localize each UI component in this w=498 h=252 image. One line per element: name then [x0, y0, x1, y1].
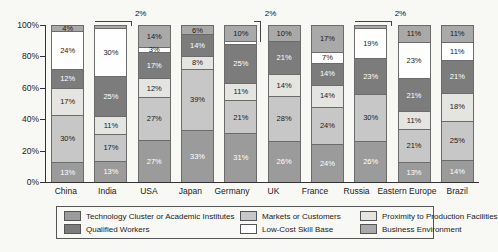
bar-segment: 30% [354, 94, 387, 141]
legend-label: Qualified Workers [86, 225, 149, 234]
bar-segment: 24% [51, 31, 84, 69]
stacked-bar-germany: 31%21%11%25%10%2% [224, 25, 257, 182]
bar-segment: 17% [94, 134, 127, 161]
x-axis-label-text: France [302, 186, 328, 196]
bar-slot: 26%28%14%21%10% [262, 25, 305, 182]
y-tick-label: 40% [1, 114, 39, 124]
callout-line [254, 21, 261, 42]
y-tick-mark [40, 151, 46, 152]
plot-area: 13%30%17%12%24%4%13%17%11%25%30%2%27%27%… [45, 25, 479, 183]
legend-label: Business Environment [382, 225, 462, 234]
bar-segment: 33% [181, 130, 214, 182]
bar-segment: 10% [268, 25, 301, 41]
y-tick-label: 100% [1, 20, 39, 30]
y-tick-mark [40, 56, 46, 57]
bar-segment: 21% [398, 129, 431, 162]
stacked-bar-japan: 33%39%8%14%6% [181, 25, 214, 182]
bar-segment: 11% [441, 25, 474, 42]
bar-segment: 28% [268, 96, 301, 140]
stacked-bar-brazil: 14%25%18%21%11%11% [441, 25, 474, 182]
bar-segment: 21% [224, 100, 257, 133]
legend-item: Markets or Customers [240, 211, 360, 221]
bar-segment: 39% [181, 69, 214, 130]
bar-slot: 14%25%18%21%11%11% [436, 25, 479, 182]
bar-segment: 27% [138, 97, 171, 139]
bar-segment: 17% [311, 25, 344, 52]
legend-swatch [240, 224, 257, 234]
y-tick-mark [40, 182, 46, 183]
bar-segment: 13% [51, 162, 84, 182]
x-axis-label-text: Brazil [447, 186, 468, 196]
x-axis-label: France [294, 186, 336, 196]
bar-segment: 13% [398, 162, 431, 182]
bar-slot: 26%30%23%19%2% [349, 25, 392, 182]
callout-label: 2% [265, 9, 277, 18]
bar-segment: 14% [138, 25, 171, 47]
stacked-bar-eastern-europe: 13%21%11%21%23%11% [398, 25, 431, 182]
bar-segment: 31% [224, 133, 257, 182]
bar-segment: 11% [398, 25, 431, 42]
bar-segment: 30% [94, 28, 127, 76]
bar-segment: 14% [181, 34, 214, 56]
stacked-bar-china: 13%30%17%12%24%4% [51, 25, 84, 182]
legend-item: Qualified Workers [64, 224, 240, 234]
bar-segment: 14% [311, 63, 344, 85]
bar-slot: 13%30%17%12%24%4% [46, 25, 89, 182]
bar-segment: 30% [51, 115, 84, 162]
bar-slot: 31%21%11%25%10%2% [219, 25, 262, 182]
bar-segment: 25% [94, 76, 127, 116]
legend-swatch [360, 224, 377, 234]
bar-segment: 17% [138, 52, 171, 79]
bar-segment: 11% [224, 83, 257, 100]
bar-segment: 14% [311, 85, 344, 107]
x-axis-label-text: Eastern Europe [377, 186, 436, 196]
y-tick-mark [40, 88, 46, 89]
y-tick-label: 0% [1, 177, 39, 187]
bar-segment: 6% [181, 25, 214, 34]
x-axis-label-text: India [98, 186, 116, 196]
legend-label: Proximity to Production Facilities [382, 212, 498, 221]
bar-segment: 25% [441, 121, 474, 160]
x-axis-label: Brazil [436, 186, 478, 196]
y-tick-label: 20% [1, 146, 39, 156]
bar-segment: 18% [441, 93, 474, 121]
bar-segment: 23% [398, 42, 431, 78]
x-axis-label-text: UK [268, 186, 280, 196]
bars-container: 13%30%17%12%24%4%13%17%11%25%30%2%27%27%… [46, 25, 479, 182]
bar-segment: 23% [354, 58, 387, 94]
stacked-bar-usa: 27%27%12%17%3%14% [138, 25, 171, 182]
bar-segment: 11% [94, 116, 127, 134]
y-tick-mark [40, 25, 46, 26]
bar-segment: 14% [441, 160, 474, 182]
bar-segment: 17% [51, 88, 84, 115]
stacked-bar-france: 24%24%14%14%7%17% [311, 25, 344, 182]
x-axis-label: USA [128, 186, 170, 196]
bar-segment: 26% [354, 141, 387, 182]
x-axis-label-text: China [55, 186, 77, 196]
stacked-bar-india: 13%17%11%25%30%2% [94, 25, 127, 182]
bar-segment: 21% [398, 78, 431, 111]
bar-segment: 7% [311, 52, 344, 63]
stacked-bar-uk: 26%28%14%21%10% [268, 25, 301, 182]
bar-segment: 10% [224, 25, 257, 41]
x-axis-label: China [45, 186, 87, 196]
y-tick-label: 80% [1, 51, 39, 61]
bar-segment: 21% [441, 60, 474, 93]
bar-segment: 11% [398, 111, 431, 128]
callout-line [95, 21, 132, 26]
y-tick-label: 60% [1, 83, 39, 93]
legend: Technology Cluster or Academic Institute… [56, 206, 434, 239]
x-axis-label: Russia [336, 186, 378, 196]
bar-segment: 26% [268, 141, 301, 182]
callout-label: 2% [135, 9, 147, 18]
legend-item: Business Environment [360, 224, 498, 234]
bar-slot: 24%24%14%14%7%17% [306, 25, 349, 182]
bar-segment: 24% [311, 107, 344, 145]
bar-slot: 13%21%11%21%23%11% [392, 25, 435, 182]
bar-slot: 13%17%11%25%30%2% [89, 25, 132, 182]
legend-item: Proximity to Production Facilities [360, 211, 498, 221]
y-tick-mark [40, 119, 46, 120]
legend-swatch [240, 211, 257, 221]
x-axis-label: Germany [211, 186, 253, 196]
